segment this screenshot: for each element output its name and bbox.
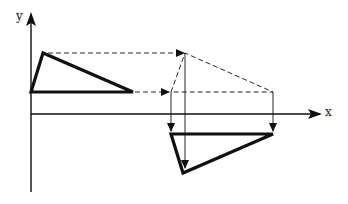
axes	[31, 14, 320, 192]
transformation-diagram	[0, 0, 348, 204]
reflected-triangle	[171, 134, 273, 173]
original-triangle	[31, 53, 133, 92]
intermediate-triangle	[171, 53, 273, 92]
diagram-canvas: y x	[0, 0, 348, 204]
y-axis-label: y	[16, 10, 23, 22]
reflection-arrows	[171, 53, 273, 168]
x-axis-label: x	[325, 106, 332, 118]
